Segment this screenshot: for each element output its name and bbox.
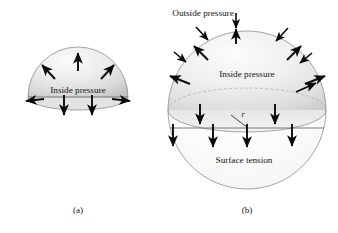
- pressure-diagram-figure: Inside pressure (a): [0, 0, 338, 233]
- diagram-canvas: Inside pressure (a): [0, 0, 338, 233]
- panel-a-caption: (a): [73, 205, 83, 215]
- surface-tension-label-b: Surface tension: [216, 155, 273, 165]
- inside-pressure-label-b: Inside pressure: [219, 69, 274, 79]
- panel-a: Inside pressure (a): [26, 47, 130, 215]
- outside-pressure-label-b: Outside pressure: [172, 8, 234, 18]
- panel-b-caption: (b): [242, 205, 253, 215]
- sphere-shape-b: [168, 31, 326, 189]
- inside-pressure-label-a: Inside pressure: [50, 85, 105, 95]
- panel-b: r Outside pressure Inside pressure Surfa…: [168, 8, 326, 215]
